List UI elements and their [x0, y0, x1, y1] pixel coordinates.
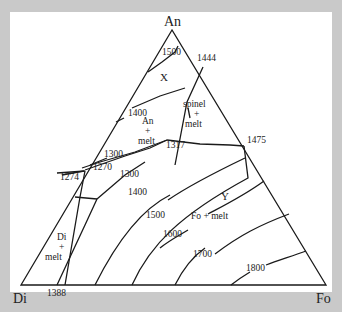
- spinel-l3: melt: [185, 119, 202, 129]
- field-y: Y: [221, 190, 229, 202]
- temp-1500-top: 1500: [162, 47, 181, 57]
- temp-1274: 1274: [60, 172, 79, 182]
- di-melt-l3: melt: [45, 252, 62, 262]
- an-melt-l2: +: [145, 126, 150, 136]
- spinel-l1: spinel: [183, 99, 206, 109]
- temp-1317: 1317: [166, 140, 185, 150]
- boundary-di-fo: [65, 171, 85, 285]
- triangle-outline: [21, 30, 326, 285]
- ternary-diagram: An Di Fo X Y spinel + melt An + melt Di …: [0, 0, 342, 312]
- isotherm-1800-base: [231, 272, 250, 285]
- temp-1400: 1400: [128, 187, 147, 197]
- isotherm-1400-an: [132, 88, 185, 108]
- temp-1500: 1500: [146, 210, 165, 220]
- field-x: X: [160, 71, 168, 83]
- isotherm-1500-b: [168, 158, 245, 200]
- vertex-an: An: [164, 14, 181, 29]
- boundary-y: [208, 181, 264, 214]
- di-melt-l1: Di: [57, 232, 67, 242]
- vertex-fo: Fo: [316, 291, 331, 306]
- temp-1444: 1444: [197, 53, 216, 63]
- temp-1300-b: 1300: [120, 169, 139, 179]
- isotherm-1800: [266, 251, 306, 265]
- isotherm-1400: [95, 195, 170, 285]
- spinel-tick: [188, 108, 190, 118]
- fo-melt: Fo + melt: [191, 211, 228, 221]
- boundary-short: [75, 197, 97, 199]
- temp-1700: 1700: [193, 249, 212, 259]
- spinel-l2: +: [194, 109, 199, 119]
- di-melt-l2: +: [59, 242, 64, 252]
- temp-1270: 1270: [93, 162, 112, 172]
- temp-1600: 1600: [163, 229, 182, 239]
- an-melt-l3: melt: [138, 136, 155, 146]
- temp-1475: 1475: [247, 135, 266, 145]
- vertex-di: Di: [13, 291, 27, 306]
- temp-1300-a: 1300: [104, 149, 123, 159]
- temp-1388: 1388: [47, 288, 66, 298]
- temp-1800: 1800: [246, 263, 265, 273]
- temp-1400-an: 1400: [128, 108, 147, 118]
